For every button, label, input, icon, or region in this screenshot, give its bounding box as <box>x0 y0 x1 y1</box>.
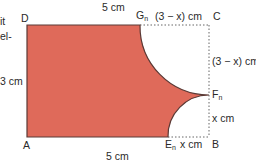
vertex-g-label: Gn <box>136 10 148 22</box>
bottom-remainder-label: x cm <box>180 139 202 150</box>
top-remainder-label: (3 − x) cm <box>155 11 202 22</box>
left-height-label: 3 cm <box>0 76 23 87</box>
shaded-region <box>27 25 209 137</box>
top-length-label: 5 cm <box>102 2 125 13</box>
vertex-e-label: En <box>165 139 176 151</box>
bottom-length-label: 5 cm <box>106 151 129 162</box>
vertex-f-label: Fn <box>212 89 222 101</box>
vertex-c-label: C <box>213 11 221 22</box>
right-upper-label: (3 − x) cm <box>212 56 256 67</box>
vertex-b-label: B <box>212 139 219 150</box>
vertex-d-label: D <box>21 13 29 24</box>
text-fragment-1: it <box>0 16 5 27</box>
vertex-a-label: A <box>23 140 30 151</box>
text-fragment-2: el- <box>0 31 12 42</box>
right-lower-label: x cm <box>212 113 234 124</box>
